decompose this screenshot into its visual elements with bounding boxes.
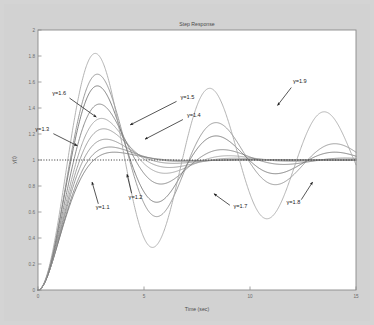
x-tick-label: 5 (143, 294, 146, 299)
step-response-chart: Step Response 051015 00.20.40.60.811.21.… (4, 4, 370, 321)
annotation-label: γ=1.6 (52, 90, 66, 96)
y-tick-label: 1.6 (29, 80, 36, 85)
y-tick-label: 1.2 (29, 132, 36, 137)
y-tick-label: 1.8 (29, 54, 36, 59)
figure-window: Step Response 051015 00.20.40.60.811.21.… (0, 0, 374, 325)
annotation-label: γ=1.1 (96, 204, 110, 210)
x-tick-label: 0 (37, 294, 40, 299)
y-tick-label: 0.2 (29, 262, 36, 267)
y-axis-label: y(t) (11, 156, 17, 164)
y-tick-label: 1.4 (29, 106, 36, 111)
annotation-label: γ=1.2 (129, 194, 143, 200)
x-tick-label: 15 (353, 294, 359, 299)
y-tick-label: 0.4 (29, 236, 36, 241)
y-tick-label: 0.6 (29, 210, 36, 215)
y-tick-label: 0 (32, 288, 35, 293)
y-tick-label: 2 (32, 28, 35, 33)
figure-canvas: Step Response 051015 00.20.40.60.811.21.… (4, 4, 370, 321)
annotation-label: γ=1.4 (187, 112, 201, 118)
annotation-label: γ=1.3 (35, 126, 49, 132)
chart-title: Step Response (179, 21, 215, 27)
annotation-label: γ=1.7 (234, 203, 248, 209)
annotation-label: γ=1.9 (293, 78, 307, 84)
x-axis-label: Time (sec) (185, 306, 210, 312)
annotation-label: γ=1.5 (181, 94, 195, 100)
annotation-label: γ=1.8 (287, 199, 301, 205)
y-tick-label: 1 (32, 158, 35, 163)
x-tick-label: 10 (247, 294, 253, 299)
y-tick-label: 0.8 (29, 184, 36, 189)
